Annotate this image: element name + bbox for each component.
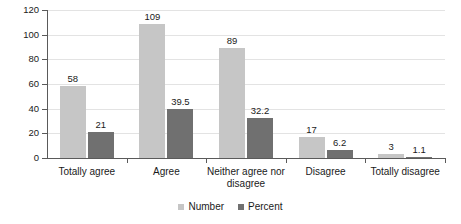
bar-group: 5821 [47,10,127,158]
category-label-line: Agree [153,166,180,177]
bar-percent [406,157,432,158]
category-label-line: disagree [198,178,294,190]
bar-number [378,154,404,158]
x-tick-mark [206,159,207,163]
bar-group: 8932.2 [206,10,286,158]
legend-label: Number [188,201,224,212]
bar-number [139,24,165,158]
bar-percent [167,109,193,158]
category-label-line: Totally agree [58,166,115,177]
category-label-line: Totally disagree [370,166,439,177]
legend-item-percent[interactable]: Percent [238,201,282,212]
bar-percent [327,150,353,158]
bar-value-label: 17 [293,125,331,135]
bar-groups: 582110939.58932.2176.231.1 [47,10,445,158]
x-axis-line [47,158,446,159]
y-tick-label-wrap: 20 [0,128,39,138]
y-tick-label-wrap: 100 [0,30,39,40]
bar-value-label: 6.2 [321,138,359,148]
bar-value-label: 32.2 [241,106,279,116]
bar-group: 31.1 [365,10,445,158]
category-label: Totally disagree [357,166,453,178]
category-label-line: Disagree [306,166,346,177]
y-tick-label: 0 [34,153,39,163]
legend-swatch-icon [238,204,244,210]
bar-number [219,48,245,158]
x-tick-mark [365,159,366,163]
bar-percent [88,132,114,158]
legend-label: Percent [248,201,282,212]
y-tick-label-wrap: 60 [0,79,39,89]
x-tick-mark [127,159,128,163]
bar-value-label: 89 [213,36,251,46]
chart-legend: NumberPercent [0,201,461,212]
x-tick-mark [445,159,446,163]
bar-percent [247,118,273,158]
y-tick-label: 40 [28,104,39,114]
bar-value-label: 1.1 [400,145,438,155]
y-tick-label-wrap: 120 [0,5,39,15]
y-tick-label: 120 [23,5,39,15]
y-tick-label: 20 [28,128,39,138]
y-tick-label-wrap: 0 [0,153,39,163]
x-tick-mark [286,159,287,163]
category-label-line: Neither agree nor [207,166,285,177]
legend-swatch-icon [178,204,184,210]
y-tick-label: 80 [28,54,39,64]
y-tick-label-wrap: 80 [0,54,39,64]
bar-value-label: 39.5 [161,97,199,107]
bar-chart: 020406080100120 582110939.58932.2176.231… [0,0,461,224]
bar-value-label: 58 [54,74,92,84]
y-tick-label-wrap: 40 [0,104,39,114]
bar-group: 176.2 [286,10,366,158]
y-tick-label: 100 [23,30,39,40]
y-tick-label: 60 [28,79,39,89]
legend-item-number[interactable]: Number [178,201,224,212]
bar-value-label: 109 [133,12,171,22]
bar-value-label: 21 [82,120,120,130]
bar-group: 10939.5 [127,10,207,158]
